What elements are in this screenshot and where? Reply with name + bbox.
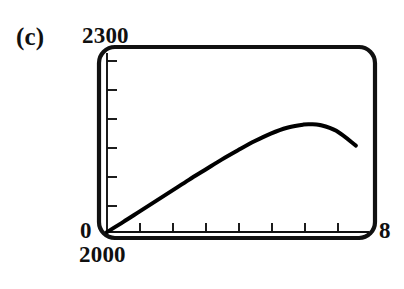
x-axis-min-label: 2000 (79, 243, 126, 266)
data-curve (107, 124, 356, 232)
y-axis-min-label: 0 (80, 219, 92, 242)
x-axis-ticks (140, 223, 338, 232)
y-axis-max-label: 2300 (82, 24, 129, 47)
plot-area (0, 0, 404, 289)
y-axis-ticks (107, 61, 117, 206)
panel-label: (c) (16, 24, 44, 49)
figure-panel-c: (c) 2300 0 2000 8 (0, 0, 404, 289)
x-axis-max-label: 8 (379, 219, 391, 242)
